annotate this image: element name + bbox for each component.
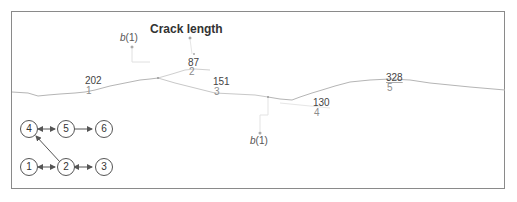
crack-path-drawing bbox=[0, 0, 517, 202]
graph-node-2: 2 bbox=[57, 158, 75, 176]
segment-3-id: 3 bbox=[214, 87, 220, 97]
diagram-title: Crack length bbox=[150, 22, 223, 36]
graph-node-6: 6 bbox=[95, 120, 113, 138]
segment-4-id: 4 bbox=[314, 108, 320, 118]
branch-marker-rest: (1) bbox=[256, 135, 268, 146]
branch-marker-lower: b(1) bbox=[250, 136, 268, 146]
crack-segment-5 bbox=[335, 79, 505, 90]
branch-marker-rest: (1) bbox=[126, 32, 138, 43]
edge-2-4 bbox=[36, 136, 60, 162]
graph-node-4: 4 bbox=[20, 120, 38, 138]
branch-marker-upper: b(1) bbox=[120, 33, 138, 43]
segment-1-id: 1 bbox=[86, 86, 92, 96]
crack-segment-2 bbox=[158, 69, 210, 78]
graph-node-1: 1 bbox=[20, 158, 38, 176]
graph-node-3: 3 bbox=[95, 158, 113, 176]
segment-5-id: 5 bbox=[387, 83, 393, 93]
segment-2-id: 2 bbox=[189, 67, 195, 77]
graph-node-5: 5 bbox=[57, 120, 75, 138]
